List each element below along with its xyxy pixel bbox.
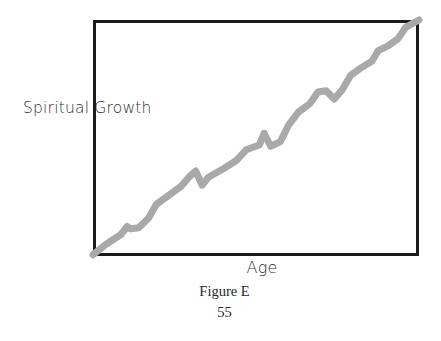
plot-area — [93, 20, 419, 256]
figure-caption: Figure E — [0, 283, 441, 300]
page-number: 55 — [0, 304, 441, 321]
figure-container: Spiritual Growth Age Figure E 55 — [0, 0, 441, 341]
spiritual-growth-line — [93, 20, 419, 255]
y-axis-label: Spiritual Growth — [23, 99, 89, 118]
x-axis-label: Age — [202, 258, 322, 278]
